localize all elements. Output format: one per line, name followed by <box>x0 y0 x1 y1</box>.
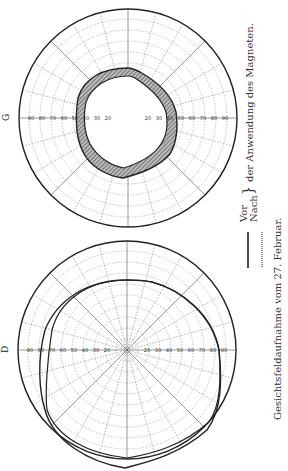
svg-text:30: 30 <box>156 115 162 121</box>
svg-text:90: 90 <box>222 115 228 121</box>
chart-label-d: D <box>0 346 10 353</box>
svg-text:30: 30 <box>93 347 99 353</box>
svg-text:80: 80 <box>38 347 44 353</box>
field-after-curve <box>46 280 220 458</box>
svg-text:60: 60 <box>61 115 67 121</box>
svg-text:70: 70 <box>50 115 56 121</box>
svg-text:90: 90 <box>221 347 227 353</box>
svg-text:80: 80 <box>39 115 45 121</box>
svg-text:40: 40 <box>83 115 89 121</box>
svg-text:70: 70 <box>200 115 206 121</box>
svg-text:90: 90 <box>27 347 33 353</box>
svg-text:50: 50 <box>178 115 184 121</box>
svg-text:50: 50 <box>72 115 78 121</box>
svg-text:80: 80 <box>211 115 217 121</box>
legend-nach-label: Nach <box>248 195 259 222</box>
chart-d: 203040 506070 8090 203040 506070 8090 D <box>0 241 236 468</box>
legend-brace-text: der Anwendung des Magneten. <box>244 23 255 182</box>
svg-text:70: 70 <box>199 347 205 353</box>
legend: Vor Nach } der Anwendung des Magneten. G… <box>236 0 288 471</box>
legend-brace: } <box>240 186 256 195</box>
svg-text:40: 40 <box>166 347 172 353</box>
svg-text:60: 60 <box>60 347 66 353</box>
svg-text:50: 50 <box>71 347 77 353</box>
svg-text:40: 40 <box>167 115 173 121</box>
svg-text:30: 30 <box>94 115 100 121</box>
svg-text:50: 50 <box>177 347 183 353</box>
svg-text:70: 70 <box>49 347 55 353</box>
svg-text:30: 30 <box>155 347 161 353</box>
svg-text:20: 20 <box>105 115 111 121</box>
svg-text:40: 40 <box>82 347 88 353</box>
figure-caption: Gesichtsfeldaufnahme vom 27. Februar. <box>272 218 283 420</box>
svg-text:60: 60 <box>188 347 194 353</box>
svg-text:20: 20 <box>104 347 110 353</box>
svg-text:20: 20 <box>145 115 151 121</box>
svg-text:20: 20 <box>144 347 150 353</box>
svg-text:60: 60 <box>189 115 195 121</box>
chart-label-g: G <box>1 114 11 121</box>
svg-text:80: 80 <box>210 347 216 353</box>
svg-text:90: 90 <box>28 115 34 121</box>
chart-g: 203040 506070 8090 203040 506070 8090 G <box>1 9 237 227</box>
field-before-curve <box>40 280 221 468</box>
